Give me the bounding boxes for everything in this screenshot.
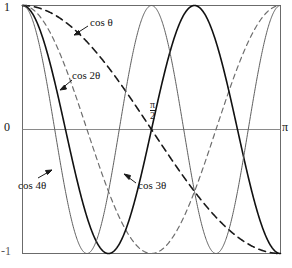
annotation-cos-theta: cos θ bbox=[90, 17, 113, 28]
arrowhead-cos-3theta bbox=[124, 174, 131, 180]
arrowhead-cos-4theta bbox=[46, 170, 53, 175]
plot-area bbox=[0, 0, 292, 268]
pi-over-2-denominator: 2 bbox=[150, 111, 155, 121]
annotation-cos-3theta: cos 3θ bbox=[138, 180, 166, 191]
annotation-cos-2theta: cos 2θ bbox=[72, 70, 100, 81]
y-axis-zero-label: 0 bbox=[4, 121, 10, 133]
y-axis-bottom-label: -1 bbox=[1, 245, 11, 257]
y-axis-top-label: 1 bbox=[4, 1, 10, 13]
annotation-leaders bbox=[38, 26, 136, 183]
x-axis-pi-label: π bbox=[282, 121, 288, 133]
x-axis-pi-over-2-label: π 2 bbox=[150, 100, 155, 121]
cosine-harmonics-chart: 1 0 -1 π π 2 cos θ cos 2θ cos 4θ cos 3θ bbox=[0, 0, 292, 268]
annotation-cos-4theta: cos 4θ bbox=[18, 180, 46, 191]
pi-over-2-numerator: π bbox=[150, 100, 155, 110]
